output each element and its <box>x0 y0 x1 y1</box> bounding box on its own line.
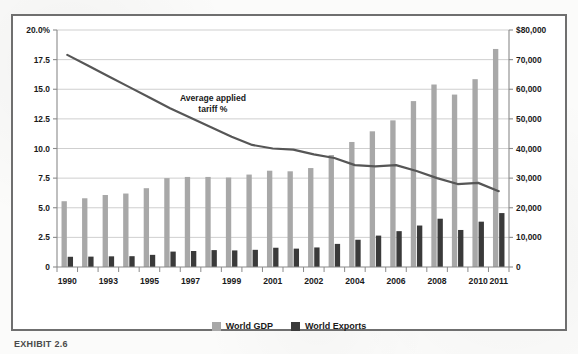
tariff-annotation: Average appliedtariff % <box>180 93 246 114</box>
right-axis: 010,00020,00030,00040,00050,00060,00070,… <box>509 25 547 272</box>
bar-world-gdp <box>288 171 293 267</box>
bar-world-gdp <box>411 101 416 267</box>
bar-world-gdp <box>370 131 375 267</box>
bar-world-exports <box>294 249 299 267</box>
right-tick-label: $80,000 <box>516 25 547 35</box>
bar-world-exports <box>150 255 155 267</box>
left-tick-label: 5.0 <box>38 203 50 213</box>
bar-world-exports <box>335 244 340 267</box>
annotation-line-1: Average applied <box>180 93 246 103</box>
right-tick-label: 70,000 <box>516 55 542 65</box>
x-tick-label: 2010 <box>469 276 488 286</box>
bar-world-gdp <box>390 120 395 267</box>
left-tick-label: 10.0 <box>34 144 51 154</box>
bar-world-gdp <box>144 188 149 267</box>
bar-world-exports <box>314 247 319 267</box>
bar-world-exports <box>232 250 237 267</box>
bar-world-exports <box>191 251 196 267</box>
exhibit-caption: EXHIBIT 2.6 <box>14 339 68 349</box>
x-tick-label: 1995 <box>140 276 159 286</box>
bar-world-exports <box>499 213 504 267</box>
bar-world-gdp <box>452 95 457 267</box>
right-tick-label: 10,000 <box>516 232 542 242</box>
bar-world-exports <box>129 256 134 267</box>
annotation-line-2: tariff % <box>198 104 227 114</box>
bar-world-exports <box>396 231 401 267</box>
x-tick-label: 2011 <box>489 276 508 286</box>
x-tick-label: 1993 <box>99 276 118 286</box>
left-tick-label: 7.5 <box>38 173 50 183</box>
right-tick-label: 50,000 <box>516 114 542 124</box>
left-tick-label: 0 <box>45 262 50 272</box>
chart-canvas: 02.55.07.510.012.515.017.520.0%010,00020… <box>13 16 565 329</box>
right-tick-label: 60,000 <box>516 84 542 94</box>
x-tick-label: 2006 <box>386 276 405 286</box>
bar-world-gdp <box>246 175 251 267</box>
x-tick-label: 1990 <box>58 276 77 286</box>
x-tick-label: 2002 <box>304 276 323 286</box>
left-axis: 02.55.07.510.012.515.017.520.0% <box>26 25 57 272</box>
bar-world-gdp <box>205 177 210 267</box>
bar-world-gdp <box>123 194 128 267</box>
right-tick-label: 40,000 <box>516 144 542 154</box>
right-tick-label: 0 <box>516 262 521 272</box>
bar-world-exports <box>458 230 463 267</box>
bar-world-exports <box>212 250 217 267</box>
bar-world-gdp <box>103 195 108 267</box>
x-axis: 1990199319951997199920012002200420062008… <box>57 267 509 286</box>
bar-world-gdp <box>226 178 231 267</box>
bar-world-gdp <box>185 177 190 267</box>
right-tick-label: 20,000 <box>516 203 542 213</box>
bar-world-exports <box>170 252 175 267</box>
bar-world-exports <box>355 240 360 267</box>
bar-world-exports <box>376 236 381 267</box>
bar-world-gdp <box>493 49 498 267</box>
bar-world-gdp <box>62 201 67 267</box>
left-tick-label: 12.5 <box>34 114 51 124</box>
x-tick-label: 1997 <box>181 276 200 286</box>
bar-world-exports <box>253 250 258 267</box>
left-tick-label: 17.5 <box>34 55 51 65</box>
x-tick-label: 2004 <box>345 276 364 286</box>
bar-world-gdp <box>267 171 272 267</box>
x-tick-label: 2008 <box>428 276 447 286</box>
left-tick-label: 20.0% <box>26 25 50 35</box>
bar-world-gdp <box>349 142 354 267</box>
x-tick-label: 2001 <box>263 276 282 286</box>
bar-world-gdp <box>472 79 477 267</box>
bar-world-gdp <box>82 198 87 267</box>
bar-world-exports <box>109 256 114 267</box>
bar-world-gdp <box>164 178 169 267</box>
bar-world-exports <box>438 219 443 267</box>
x-tick-label: 1999 <box>222 276 241 286</box>
right-tick-label: 30,000 <box>516 173 542 183</box>
bar-world-exports <box>479 222 484 267</box>
bar-world-gdp <box>308 168 313 267</box>
left-tick-label: 15.0 <box>34 84 51 94</box>
bar-world-gdp <box>329 155 334 267</box>
bar-world-exports <box>417 226 422 267</box>
bar-world-exports <box>68 257 73 267</box>
bar-world-exports <box>88 257 93 267</box>
bar-world-exports <box>273 248 278 267</box>
left-tick-label: 2.5 <box>38 232 50 242</box>
bar-series <box>62 49 505 267</box>
exhibit-frame: 02.55.07.510.012.515.017.520.0%010,00020… <box>11 14 567 331</box>
